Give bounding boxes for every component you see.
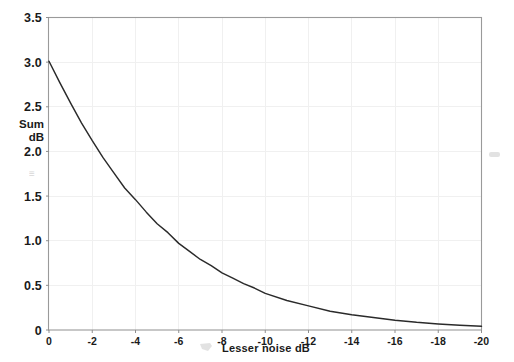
x-tick-label: -4 xyxy=(131,335,141,347)
y-axis-title-line1: Sum xyxy=(19,118,44,130)
y-tick-label: 3.0 xyxy=(24,56,42,70)
x-tick-label: -20 xyxy=(474,335,490,347)
x-tick-label: -6 xyxy=(174,335,184,347)
right-margin-smudge-artifact xyxy=(489,152,500,157)
y-axis-smudge-artifact: ≡ xyxy=(29,168,35,179)
y-tick-label: 0.5 xyxy=(24,279,42,293)
y-tick-label: 3.5 xyxy=(24,11,42,25)
y-axis-title-line2: dB xyxy=(29,131,44,143)
y-tick-label: 0 xyxy=(35,324,42,338)
x-axis-title: Lesser noise dB xyxy=(222,342,310,354)
y-tick-label: 1.5 xyxy=(24,190,42,204)
chart-svg: 0-2-4-6-8-10-12-14-16-18-20 00.51.01.52.… xyxy=(0,0,514,362)
x-tick-label: -16 xyxy=(387,335,403,347)
y-tick-label: 1.0 xyxy=(24,234,42,248)
x-tick-label: -2 xyxy=(87,335,97,347)
y-tick-label: 2.0 xyxy=(24,145,42,159)
chart-figure: 0-2-4-6-8-10-12-14-16-18-20 00.51.01.52.… xyxy=(0,0,514,362)
x-tick-label: -18 xyxy=(431,335,447,347)
x-tick-label: 0 xyxy=(46,335,52,347)
y-tick-label: 2.5 xyxy=(24,100,42,114)
x-tick-label: -14 xyxy=(344,335,360,347)
chart-background xyxy=(0,0,514,362)
